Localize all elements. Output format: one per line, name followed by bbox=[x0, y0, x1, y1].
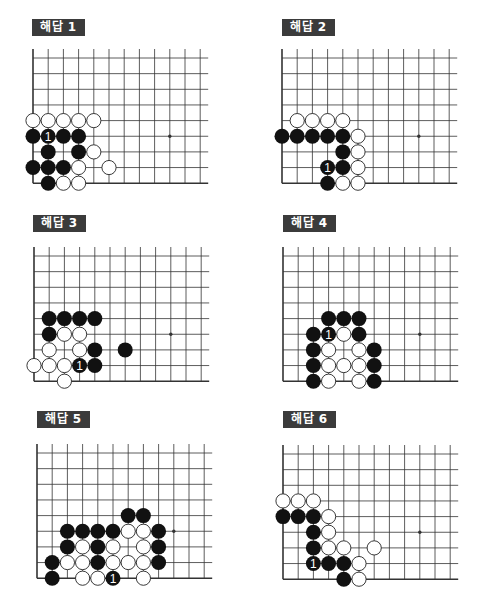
black-stone bbox=[41, 144, 56, 159]
white-stone bbox=[352, 556, 366, 570]
white-stone bbox=[41, 113, 55, 127]
solution-label-3: 해답 3 bbox=[33, 215, 86, 232]
black-stone bbox=[337, 571, 352, 586]
black-stone bbox=[321, 311, 336, 326]
white-stone bbox=[72, 176, 86, 190]
white-stone bbox=[87, 113, 101, 127]
black-stone bbox=[44, 571, 59, 586]
white-stone bbox=[60, 556, 74, 570]
black-stone bbox=[72, 311, 87, 326]
solution-label-5: 해답 5 bbox=[37, 411, 90, 428]
black-stone bbox=[56, 160, 71, 175]
black-stone bbox=[90, 539, 105, 554]
move-number: 1 bbox=[45, 129, 52, 143]
white-stone bbox=[136, 556, 150, 570]
white-stone bbox=[322, 509, 336, 523]
white-stone bbox=[136, 540, 150, 554]
white-stone bbox=[72, 342, 86, 356]
black-stone bbox=[290, 128, 305, 143]
white-stone bbox=[106, 556, 120, 570]
black-stone bbox=[71, 144, 86, 159]
move-number: 1 bbox=[109, 572, 116, 586]
black-stone bbox=[305, 128, 320, 143]
black-stone bbox=[336, 144, 351, 159]
black-stone bbox=[105, 524, 120, 539]
white-stone bbox=[75, 571, 89, 585]
black-stone bbox=[87, 311, 102, 326]
black-stone bbox=[90, 524, 105, 539]
white-stone bbox=[337, 541, 351, 555]
go-board-3: 1 bbox=[24, 244, 221, 394]
white-stone bbox=[72, 113, 86, 127]
black-stone bbox=[320, 128, 335, 143]
black-stone bbox=[41, 175, 56, 190]
white-stone bbox=[72, 327, 86, 341]
black-stone bbox=[136, 508, 151, 523]
white-stone bbox=[336, 358, 350, 372]
black-stone bbox=[41, 326, 56, 341]
white-stone bbox=[321, 374, 335, 388]
black-stone bbox=[90, 555, 105, 570]
solution-label-1: 해답 1 bbox=[32, 19, 85, 36]
black-stone bbox=[291, 509, 306, 524]
black-stone bbox=[306, 342, 321, 357]
white-stone bbox=[367, 541, 381, 555]
white-stone bbox=[336, 113, 350, 127]
black-stone bbox=[26, 128, 41, 143]
black-stone bbox=[41, 160, 56, 175]
white-stone bbox=[307, 494, 321, 508]
white-stone bbox=[336, 176, 350, 190]
white-stone bbox=[352, 358, 366, 372]
black-stone bbox=[151, 524, 166, 539]
white-stone bbox=[351, 176, 365, 190]
white-stone bbox=[57, 327, 71, 341]
white-stone bbox=[321, 358, 335, 372]
black-stone bbox=[306, 525, 321, 540]
black-stone bbox=[71, 128, 86, 143]
black-stone bbox=[320, 175, 335, 190]
go-board-1: 1 bbox=[23, 46, 220, 196]
star-point bbox=[418, 332, 421, 335]
white-stone bbox=[351, 129, 365, 143]
white-stone bbox=[26, 358, 40, 372]
star-point bbox=[172, 530, 175, 533]
move-number: 1 bbox=[325, 328, 332, 342]
white-stone bbox=[352, 374, 366, 388]
white-stone bbox=[321, 343, 335, 357]
white-stone bbox=[321, 113, 335, 127]
black-stone bbox=[366, 358, 381, 373]
black-stone bbox=[151, 555, 166, 570]
black-stone bbox=[87, 342, 102, 357]
black-stone bbox=[41, 311, 56, 326]
go-board-5: 1 bbox=[27, 441, 224, 591]
white-stone bbox=[121, 524, 135, 538]
solution-label-4: 해답 4 bbox=[283, 215, 336, 232]
go-board-6: 1 bbox=[273, 442, 470, 592]
black-stone bbox=[336, 128, 351, 143]
white-stone bbox=[291, 494, 305, 508]
black-stone bbox=[351, 327, 366, 342]
black-stone bbox=[26, 160, 41, 175]
black-stone bbox=[60, 539, 75, 554]
white-stone bbox=[57, 374, 71, 388]
black-stone bbox=[306, 373, 321, 388]
white-stone bbox=[121, 556, 135, 570]
black-stone bbox=[151, 539, 166, 554]
star-point bbox=[169, 332, 172, 335]
white-stone bbox=[72, 160, 86, 174]
white-stone bbox=[75, 556, 89, 570]
solution-label-6: 해답 6 bbox=[283, 411, 336, 428]
black-stone bbox=[321, 556, 336, 571]
white-stone bbox=[290, 113, 304, 127]
move-number: 1 bbox=[310, 557, 317, 571]
white-stone bbox=[42, 358, 56, 372]
black-stone bbox=[120, 508, 135, 523]
black-stone bbox=[56, 128, 71, 143]
white-stone bbox=[75, 540, 89, 554]
black-stone bbox=[351, 311, 366, 326]
white-stone bbox=[56, 113, 70, 127]
white-stone bbox=[322, 541, 336, 555]
white-stone bbox=[26, 113, 40, 127]
black-stone bbox=[337, 556, 352, 571]
white-stone bbox=[42, 342, 56, 356]
